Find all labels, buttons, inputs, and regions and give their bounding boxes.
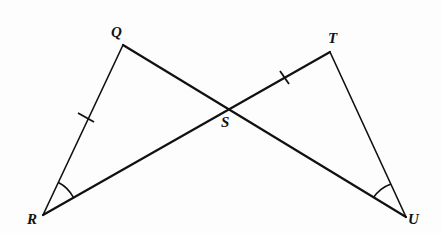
label-q: Q: [111, 24, 122, 40]
label-s: S: [221, 114, 229, 130]
label-t: T: [328, 30, 338, 46]
segment-qu: [123, 45, 406, 217]
tick-mark-st: [280, 71, 289, 84]
segment-qr: [43, 45, 123, 215]
label-u: U: [408, 211, 420, 227]
angle-arc-u: [374, 184, 392, 198]
segment-rt: [43, 52, 330, 215]
diagram-svg: Q T R U S: [0, 0, 441, 233]
geometry-diagram: Q T R U S: [0, 0, 441, 233]
tick-mark-qr: [78, 113, 94, 122]
label-r: R: [26, 211, 37, 227]
angle-arc-r: [59, 183, 74, 198]
segment-tu: [330, 52, 406, 217]
